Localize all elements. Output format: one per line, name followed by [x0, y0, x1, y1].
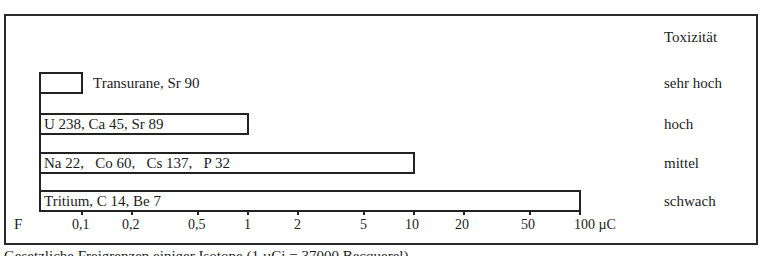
x-tick-label: 10	[405, 217, 419, 232]
x-tick-label: 100 µC	[574, 217, 616, 232]
x-tick-label: 0,5	[188, 217, 206, 232]
bar-label: U 238, Ca 45, Sr 89	[44, 116, 164, 132]
x-tick-label: 0,2	[122, 217, 140, 232]
bar-label: Transurane, Sr 90	[93, 75, 200, 91]
bar-label: Tritium, C 14, Be 7	[44, 193, 161, 209]
category-label: schwach	[664, 193, 716, 209]
bar-sehr-hoch	[40, 73, 82, 93]
category-label: mittel	[664, 155, 699, 171]
origin-label: F	[14, 216, 22, 232]
x-tick-label: 1	[244, 217, 251, 232]
category-label: hoch	[664, 116, 694, 132]
category-label: sehr hoch	[664, 75, 722, 91]
y-axis-title: Toxizität	[664, 29, 718, 45]
chart: Transurane, Sr 90sehr hochU 238, Ca 45, …	[0, 0, 763, 256]
x-tick-label: 50	[521, 217, 535, 232]
bar-label: Na 22, Co 60, Cs 137, P 32	[44, 155, 230, 171]
x-tick-label: 2	[294, 217, 301, 232]
x-tick-label: 20	[455, 217, 469, 232]
x-tick-label: 5	[360, 217, 367, 232]
figure-caption: Gesetzliche Freigrenzen einiger Isotope …	[4, 248, 408, 256]
x-tick-label: 0,1	[72, 217, 90, 232]
